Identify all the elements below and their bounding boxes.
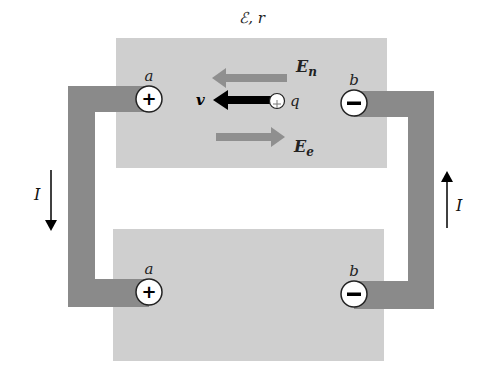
svg-text:+: + — [141, 281, 156, 302]
top-terminal-b — [341, 90, 367, 116]
current-right-arrow — [441, 171, 453, 228]
bottom-terminal-a-label: a — [145, 260, 154, 278]
top-terminal-a: + — [136, 86, 162, 112]
bottom-terminal-b-label: b — [349, 262, 359, 280]
charge-q — [270, 94, 285, 109]
current-left-label: I — [33, 185, 41, 204]
bottom-terminal-b — [341, 281, 367, 307]
current-left-arrow — [45, 170, 57, 231]
emf-resistance-label: ℰ, r — [239, 9, 266, 27]
top-terminal-a-label: a — [145, 67, 154, 85]
bottom-terminal-a: + — [136, 279, 162, 305]
current-right-label: I — [455, 196, 463, 215]
velocity-label: v — [196, 91, 205, 109]
top-terminal-b-label: b — [349, 71, 359, 89]
svg-text:+: + — [141, 88, 156, 109]
battery-circuit-diagram: ℰ, r + a b En v q Ee — [0, 0, 481, 370]
charge-label: q — [290, 92, 300, 110]
